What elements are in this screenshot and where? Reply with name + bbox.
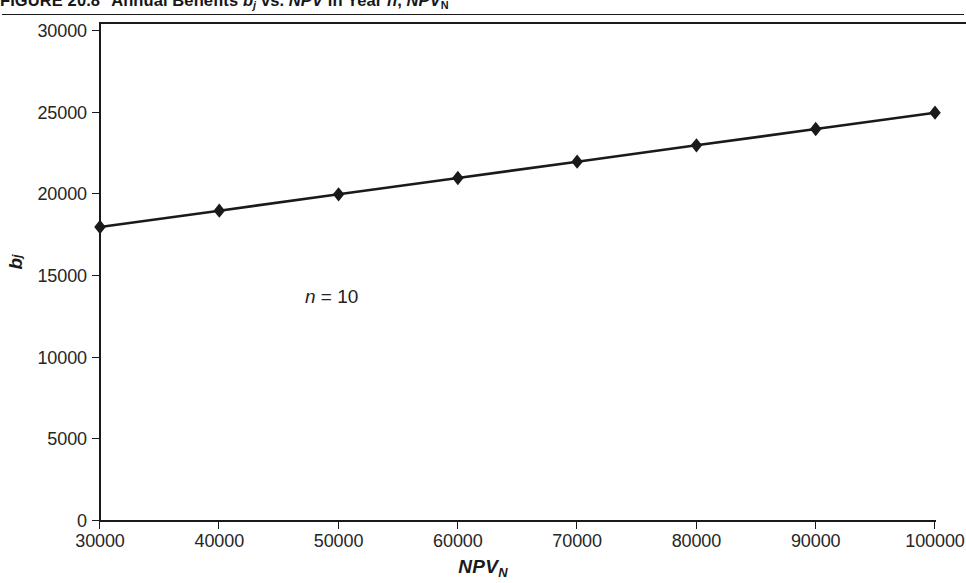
data-point-marker [810,122,822,136]
plot-frame-top-border [100,22,966,24]
x-axis-tick-label: 90000 [791,531,841,552]
x-axis-tick-label: 40000 [195,531,245,552]
series-plot-layer [0,0,966,583]
figure-caption-b: b [243,0,253,9]
caption-divider-rule [2,14,964,15]
y-axis-tick-label: 20000 [37,184,87,205]
x-axis-tick [934,521,935,529]
data-point-marker [214,203,226,217]
y-axis-line [99,22,101,522]
y-axis-tick [92,357,100,358]
annotation-n-symbol: n [305,286,316,307]
y-axis-tick [92,112,100,113]
x-axis-title-sub: N [498,565,508,580]
x-axis-tick [815,521,816,529]
x-axis-tick-label: 100000 [905,531,964,552]
figure-caption: FIGURE 20.8Annual Benefits bj vs. NPV in… [0,0,966,13]
figure-caption-text-3: in Year [323,0,387,9]
figure-caption-comma: , [397,0,406,9]
chart-annotation-n-equals-10: n = 10 [305,286,358,308]
y-axis-tick [92,193,100,194]
figure-caption-text-2: vs. [256,0,289,9]
y-axis-tick [92,438,100,439]
y-axis-tick [92,30,100,31]
y-axis-tick-label: 25000 [37,102,87,123]
y-axis-tick-label: 10000 [37,347,87,368]
data-point-marker [333,187,345,201]
figure-caption-n: n [387,0,397,9]
x-axis-tick-label: 50000 [314,531,364,552]
series-line [100,113,935,227]
y-axis-title-sub: j [9,254,24,258]
x-axis-tick [696,521,697,529]
data-point-marker [691,138,703,152]
figure-caption-npv2: NPV [407,0,441,9]
x-axis-tick [218,521,219,529]
figure-caption-npv2-sub: N [441,0,449,11]
data-point-marker [929,105,941,119]
y-axis-title-main: b [5,258,27,270]
x-axis-tick-label: 30000 [75,531,125,552]
y-axis-tick [92,275,100,276]
x-axis-title: NPVN [0,556,966,580]
x-axis-title-main: NPV [458,556,498,577]
x-axis-tick [457,521,458,529]
figure-caption-label: FIGURE 20.8 [0,0,100,9]
data-point-marker [571,154,583,168]
figure-page: FIGURE 20.8Annual Benefits bj vs. NPV in… [0,0,966,583]
y-axis-title: bj [0,246,38,278]
x-axis-tick-label: 80000 [672,531,722,552]
figure-caption-npv: NPV [289,0,323,9]
x-axis-tick [338,521,339,529]
x-axis-tick [99,521,100,529]
y-axis-tick-label: 5000 [47,429,87,450]
x-axis-line [99,520,936,522]
y-axis-tick-label: 15000 [37,266,87,287]
annotation-n-value: = 10 [316,286,359,307]
y-axis-tick-label: 0 [77,511,87,532]
x-axis-tick-label: 70000 [552,531,602,552]
x-axis-tick [576,521,577,529]
figure-caption-text-1: Annual Benefits [111,0,243,9]
y-axis-tick-label: 30000 [37,21,87,42]
data-point-marker [452,171,464,185]
x-axis-tick-label: 60000 [433,531,483,552]
